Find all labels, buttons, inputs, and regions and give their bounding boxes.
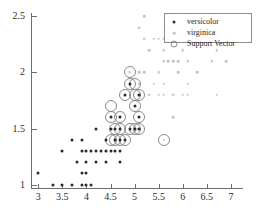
x-tick-label: 5.5 <box>152 192 165 202</box>
data-point-virginica <box>177 60 180 63</box>
data-point-versicolor <box>90 183 93 186</box>
legend-marker-versicolor-icon <box>173 21 176 24</box>
data-point-versicolor <box>128 82 131 85</box>
y-tick-label: 2.5 <box>13 11 26 21</box>
data-point-versicolor <box>95 149 98 152</box>
data-point-versicolor <box>104 149 107 152</box>
x-tick-mark <box>135 184 136 189</box>
legend-marker-support-vector-icon <box>171 41 178 48</box>
y-tick-label: 1 <box>20 180 25 190</box>
data-point-versicolor <box>114 138 117 141</box>
x-tick-label: 4.5 <box>104 192 117 202</box>
data-point-virginica <box>157 38 160 41</box>
data-point-virginica <box>210 60 213 63</box>
legend-item-versicolor: versicolor <box>165 17 251 27</box>
data-point-versicolor <box>119 127 122 130</box>
data-point-versicolor <box>138 127 141 130</box>
data-point-versicolor <box>109 127 112 130</box>
chart-legend: versicolor virginica Support Vector <box>164 13 252 43</box>
data-point-virginica <box>172 94 175 97</box>
data-point-virginica <box>162 60 165 63</box>
data-point-virginica <box>143 71 146 74</box>
x-tick-mark <box>183 184 184 189</box>
data-point-versicolor <box>70 138 73 141</box>
data-point-virginica <box>157 71 160 74</box>
data-point-versicolor <box>75 161 78 164</box>
data-point-versicolor <box>123 138 126 141</box>
x-tick-label: 3 <box>36 192 41 202</box>
data-point-virginica <box>143 15 146 18</box>
data-point-versicolor <box>104 138 107 141</box>
data-point-versicolor <box>119 149 122 152</box>
x-tick-mark <box>231 184 232 189</box>
support-vector-ring <box>124 66 136 78</box>
data-point-virginica <box>225 60 228 63</box>
data-point-virginica <box>162 82 165 85</box>
data-point-virginica <box>138 26 141 29</box>
y-tick-mark <box>32 129 37 130</box>
legend-label-virginica: virginica <box>187 29 215 37</box>
data-point-versicolor <box>85 161 88 164</box>
y-tick-label: 1.5 <box>13 124 26 134</box>
x-tick-mark <box>111 184 112 189</box>
data-point-versicolor <box>61 149 64 152</box>
y-axis-line <box>31 13 32 189</box>
data-point-versicolor <box>138 116 141 119</box>
x-tick-mark <box>38 184 39 189</box>
data-point-versicolor <box>123 93 126 96</box>
data-point-versicolor <box>85 149 88 152</box>
x-tick-label: 6.5 <box>201 192 214 202</box>
data-point-virginica <box>148 49 151 52</box>
y-tick-mark <box>32 16 37 17</box>
data-point-virginica <box>186 60 189 63</box>
x-tick-label: 5 <box>132 192 137 202</box>
support-vector-ring <box>158 134 170 146</box>
data-point-versicolor <box>119 161 122 164</box>
data-point-virginica <box>196 71 199 74</box>
data-point-virginica <box>157 94 160 97</box>
x-tick-mark <box>207 184 208 189</box>
data-point-virginica <box>153 82 156 85</box>
data-point-versicolor <box>85 172 88 175</box>
data-point-virginica <box>172 116 175 119</box>
data-point-virginica <box>215 49 218 52</box>
y-tick-label: 2 <box>20 67 25 77</box>
scatter-plot-figure: 33.544.555.566.5711.522.5 versicolor vir… <box>0 0 257 216</box>
data-point-versicolor <box>119 116 122 119</box>
data-point-versicolor <box>70 183 73 186</box>
data-point-versicolor <box>80 183 83 186</box>
data-point-versicolor <box>90 149 93 152</box>
legend-marker-virginica-icon <box>173 32 176 35</box>
data-point-virginica <box>153 38 156 41</box>
data-point-versicolor <box>114 127 117 130</box>
data-point-virginica <box>215 94 218 97</box>
data-point-versicolor <box>80 172 83 175</box>
data-point-virginica <box>138 71 141 74</box>
x-tick-label: 6 <box>180 192 185 202</box>
legend-item-virginica: virginica <box>165 28 251 38</box>
data-point-versicolor <box>95 161 98 164</box>
x-tick-label: 7 <box>228 192 233 202</box>
data-point-versicolor <box>80 138 83 141</box>
data-point-versicolor <box>138 93 141 96</box>
data-point-versicolor <box>85 183 88 186</box>
data-point-versicolor <box>104 161 107 164</box>
data-point-versicolor <box>114 149 117 152</box>
legend-label-support-vector: Support Vector <box>187 40 235 48</box>
y-tick-mark <box>32 72 37 73</box>
data-point-versicolor <box>99 149 102 152</box>
data-point-versicolor <box>133 127 136 130</box>
data-point-virginica <box>172 60 175 63</box>
x-tick-mark <box>159 184 160 189</box>
data-point-versicolor <box>133 105 136 108</box>
data-point-virginica <box>143 38 146 41</box>
data-point-versicolor <box>80 149 83 152</box>
data-point-versicolor <box>109 149 112 152</box>
data-point-virginica <box>148 94 151 97</box>
support-vector-ring <box>105 100 117 112</box>
data-point-virginica <box>181 49 184 52</box>
data-point-virginica <box>162 49 165 52</box>
data-point-versicolor <box>37 172 40 175</box>
data-point-virginica <box>186 94 189 97</box>
data-point-virginica <box>177 71 180 74</box>
